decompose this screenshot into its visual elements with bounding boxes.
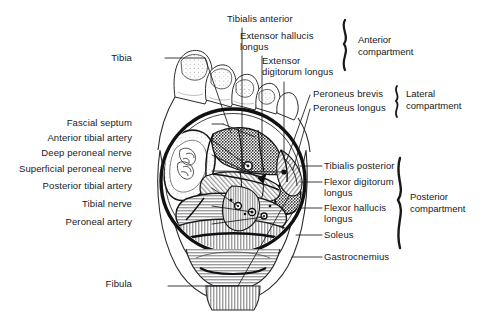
anatomy-figure: Tibia Fascial septum Anterior tibial art… bbox=[0, 0, 492, 319]
label-anterior-compartment: Anterior compartment bbox=[358, 34, 413, 57]
label-lateral-compartment: Lateral compartment bbox=[406, 88, 461, 111]
label-posterior-compartment: Posterior compartment bbox=[410, 191, 465, 214]
label-tibial-nerve: Tibial nerve bbox=[42, 198, 132, 209]
label-peroneal-artery: Peroneal artery bbox=[32, 216, 132, 227]
label-fascial-septum: Fascial septum bbox=[32, 117, 132, 128]
brace-posterior bbox=[398, 158, 401, 248]
brace-anterior bbox=[344, 20, 346, 70]
label-posterior-tibial-artery: Posterior tibial artery bbox=[12, 180, 132, 191]
label-superficial-peroneal-nerve: Superficial peroneal nerve bbox=[0, 163, 132, 174]
label-deep-peroneal-nerve: Deep peroneal nerve bbox=[10, 147, 132, 158]
brace-lateral bbox=[396, 86, 398, 117]
label-gastrocnemius: Gastrocnemius bbox=[324, 251, 389, 262]
lower-leg-shaft bbox=[186, 249, 280, 310]
label-soleus: Soleus bbox=[324, 229, 354, 240]
label-peroneus-longus: Peroneus longus bbox=[313, 102, 386, 113]
label-extensor-digitorum-longus: Extensor digitorum longus bbox=[262, 55, 333, 77]
label-extensor-hallucis-longus: Extensor hallucis longus bbox=[240, 30, 314, 52]
label-tibia: Tibia bbox=[62, 52, 132, 63]
label-peroneus-brevis: Peroneus brevis bbox=[313, 88, 383, 99]
label-anterior-tibial-artery: Anterior tibial artery bbox=[12, 132, 132, 143]
label-tibialis-posterior: Tibialis posterior bbox=[324, 160, 395, 171]
label-flexor-digitorum-longus: Flexor digitorum longus bbox=[324, 176, 394, 198]
label-fibula: Fibula bbox=[62, 278, 132, 289]
label-flexor-hallucis-longus: Flexor hallucis longus bbox=[324, 202, 386, 224]
label-tibialis-anterior: Tibialis anterior bbox=[227, 13, 293, 24]
leg-cross-section bbox=[161, 109, 305, 265]
